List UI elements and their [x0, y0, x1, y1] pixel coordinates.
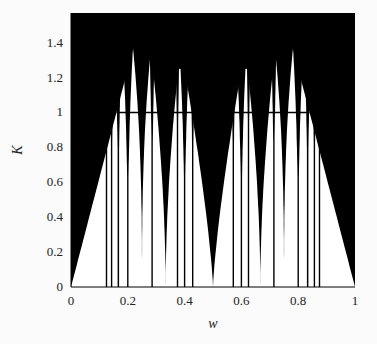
y-tick-label: 0.8	[47, 139, 63, 154]
y-tick-label: 1	[57, 104, 64, 119]
y-tick-label: 0.4	[47, 209, 64, 224]
y-tick-label: 0.6	[47, 174, 64, 189]
overlap-region	[230, 13, 270, 69]
x-tick-label: 1	[352, 293, 359, 308]
x-tick-label: 0.8	[290, 293, 306, 308]
arnold-tongues-chart: 00.20.40.60.8100.20.40.60.811.21.4 w K	[0, 0, 377, 344]
x-tick-label: 0.6	[233, 293, 250, 308]
plot-area	[71, 13, 355, 287]
x-tick-label: 0.4	[176, 293, 193, 308]
overlap-region	[156, 13, 196, 69]
x-tick-label: 0.2	[120, 293, 136, 308]
x-axis-label: w	[208, 316, 218, 331]
y-tick-label: 0.2	[47, 244, 63, 259]
y-tick-label: 0	[57, 279, 64, 294]
y-axis-label: K	[10, 145, 25, 156]
x-tick-label: 0	[68, 293, 75, 308]
y-tick-label: 1.2	[47, 70, 63, 85]
y-tick-label: 1.4	[47, 35, 64, 50]
